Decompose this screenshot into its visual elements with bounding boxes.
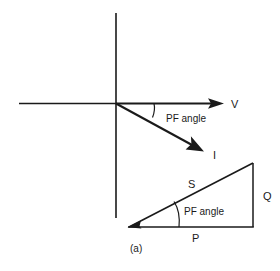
- current-label: I: [213, 149, 216, 161]
- phasor-pf-angle-arc: [153, 104, 155, 118]
- triangle-left-vertex-icon: [128, 221, 142, 229]
- phasor-pf-angle-label: PF angle: [166, 113, 206, 124]
- real-power-label: P: [192, 232, 199, 244]
- pf-angle-arc-lower-icon: [174, 202, 179, 228]
- figure-canvas: V I PF angle S Q P PF angle (a): [0, 0, 280, 271]
- pf-angle-arc-upper-icon: [153, 104, 155, 118]
- apparent-power-label: S: [188, 178, 195, 190]
- triangle-pf-angle-arc: [174, 202, 179, 228]
- voltage-label: V: [231, 98, 239, 110]
- voltage-phasor: [116, 98, 224, 109]
- reactive-power-label: Q: [263, 190, 272, 202]
- triangle-pf-angle-label: PF angle: [184, 206, 224, 217]
- apparent-power-side: [129, 163, 253, 227]
- current-phasor: [116, 104, 204, 152]
- phasor-axes: [19, 13, 116, 218]
- figure-caption: (a): [130, 243, 142, 254]
- power-triangle-shape: [128, 163, 254, 229]
- figure-container: V I PF angle S Q P PF angle (a): [0, 0, 280, 271]
